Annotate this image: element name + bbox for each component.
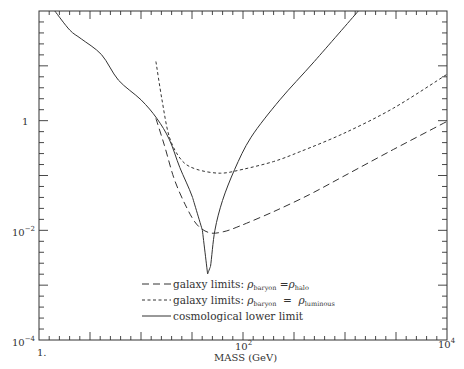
curve-galaxy-luminous (156, 62, 447, 174)
legend: galaxy limits: ρbaryon =ρhalo galaxy lim… (142, 278, 335, 322)
axis-ticks (39, 11, 447, 340)
legend-entry-luminous: galaxy limits: ρbaryon = ρluminous (173, 294, 335, 308)
curve-cosmological (55, 11, 359, 274)
x-label-1e4: 104 (438, 337, 456, 350)
plot-frame (39, 11, 447, 340)
x-label-1e2: 102 (235, 339, 252, 352)
y-label-1e-4: 10−4 (12, 335, 36, 348)
x-label-1: 1. (37, 347, 47, 358)
x-axis-title: MASS (GeV) (214, 352, 277, 363)
legend-entry-halo: galaxy limits: ρbaryon =ρhalo (173, 278, 309, 292)
curves (55, 11, 447, 274)
chart: 1 10−2 10−4 1. 102 104 MASS (GeV) galaxy… (0, 0, 464, 369)
curve-galaxy-halo (156, 118, 447, 233)
y-label-1e-2: 10−2 (12, 225, 35, 238)
legend-entry-cosmological: cosmological lower limit (173, 310, 304, 322)
y-label-1: 1 (22, 116, 28, 127)
